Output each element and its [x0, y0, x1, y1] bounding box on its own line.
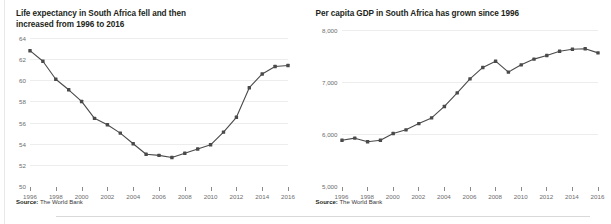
data-point-marker	[353, 136, 356, 139]
x-axis-tick	[521, 187, 522, 191]
data-point-marker	[119, 131, 122, 134]
data-point-marker	[442, 105, 445, 108]
x-axis-tick-label: 2016	[591, 193, 605, 200]
data-point-marker	[519, 63, 522, 66]
data-point-marker	[170, 156, 173, 159]
x-axis-tick	[30, 187, 31, 191]
x-axis-tick	[495, 187, 496, 191]
panel-per-capita-gdp: Per capita GDP in South Africa has grown…	[306, 0, 611, 224]
data-point-marker	[144, 153, 147, 156]
x-axis-tick-label: 2014	[565, 193, 579, 200]
data-point-marker	[417, 122, 420, 125]
source-text: The World Bank	[338, 199, 382, 205]
data-point-marker	[429, 116, 432, 119]
source-label: Source:	[16, 199, 38, 205]
x-axis-tick-label: 2004	[126, 193, 140, 200]
data-point-marker	[132, 142, 135, 145]
data-point-marker	[468, 77, 471, 80]
data-point-marker	[506, 70, 509, 73]
data-point-marker	[596, 51, 599, 54]
data-point-marker	[532, 57, 535, 60]
y-axis-tick-label: 6,000	[298, 131, 338, 138]
data-point-marker	[67, 88, 70, 91]
series-polyline	[342, 49, 598, 142]
y-axis-tick-label: 8,000	[298, 27, 338, 34]
x-axis-tick	[288, 187, 289, 191]
plot-canvas-per-capita-gdp: 5,0006,0007,0008,00019961998200020022004…	[342, 30, 598, 186]
y-axis-tick-label: 60	[0, 77, 26, 84]
y-axis-tick-label: 54	[0, 140, 26, 147]
x-axis-tick	[211, 187, 212, 191]
data-series-line	[30, 38, 288, 186]
x-axis-tick	[185, 187, 186, 191]
x-axis-tick-label: 2006	[463, 193, 477, 200]
y-axis-tick-label: 7,000	[298, 79, 338, 86]
x-axis-tick-label: 2012	[230, 193, 244, 200]
y-axis-tick-label: 50	[0, 183, 26, 190]
x-axis-tick	[82, 187, 83, 191]
y-axis-tick-label: 58	[0, 98, 26, 105]
y-axis-tick-label: 5,000	[298, 183, 338, 190]
y-axis-tick-label: 64	[0, 35, 26, 42]
plot-canvas-life-expectancy: 5052545658606264199619982000200220042006…	[30, 38, 288, 186]
x-axis-tick-label: 2012	[539, 193, 553, 200]
data-point-marker	[570, 48, 573, 51]
data-point-marker	[365, 140, 368, 143]
x-axis-tick-label: 2014	[255, 193, 269, 200]
data-point-marker	[41, 60, 44, 63]
x-axis-tick-label: 2008	[488, 193, 502, 200]
x-axis-tick-label: 2010	[514, 193, 528, 200]
data-point-marker	[106, 123, 109, 126]
x-axis-tick	[236, 187, 237, 191]
data-point-marker	[222, 130, 225, 133]
data-point-marker	[273, 65, 276, 68]
data-point-marker	[157, 154, 160, 157]
chart-title-per-capita-gdp: Per capita GDP in South Africa has grown…	[316, 8, 576, 19]
data-point-marker	[209, 143, 212, 146]
data-point-marker	[261, 72, 264, 75]
y-axis-tick-label: 52	[0, 161, 26, 168]
data-point-marker	[80, 100, 83, 103]
x-axis-tick-label: 2004	[437, 193, 451, 200]
data-point-marker	[378, 139, 381, 142]
x-axis-tick	[133, 187, 134, 191]
x-axis-tick	[444, 187, 445, 191]
data-point-marker	[235, 116, 238, 119]
series-polyline	[30, 51, 288, 158]
x-axis-tick	[393, 187, 394, 191]
data-point-marker	[93, 117, 96, 120]
data-point-marker	[404, 128, 407, 131]
x-axis-tick	[262, 187, 263, 191]
x-axis-tick-label: 2002	[101, 193, 115, 200]
data-point-marker	[545, 54, 548, 57]
data-point-marker	[340, 139, 343, 142]
x-axis-tick	[418, 187, 419, 191]
data-point-marker	[455, 91, 458, 94]
data-point-marker	[54, 78, 57, 81]
x-axis-tick	[546, 187, 547, 191]
data-point-marker	[557, 50, 560, 53]
x-axis-tick	[470, 187, 471, 191]
x-axis-tick-label: 2010	[204, 193, 218, 200]
data-point-marker	[286, 64, 289, 67]
x-axis-tick	[572, 187, 573, 191]
x-axis-tick	[107, 187, 108, 191]
x-axis-tick-label: 2000	[386, 193, 400, 200]
data-point-marker	[183, 152, 186, 155]
panel-life-expectancy: Life expectancy in South Africa fell and…	[0, 0, 306, 224]
data-point-marker	[583, 47, 586, 50]
x-axis-tick-label: 2002	[411, 193, 425, 200]
y-axis-tick-label: 56	[0, 119, 26, 126]
x-axis-tick	[56, 187, 57, 191]
data-series-line	[342, 30, 598, 186]
data-point-marker	[391, 132, 394, 135]
x-axis-tick	[159, 187, 160, 191]
chart-title-life-expectancy: Life expectancy in South Africa fell and…	[16, 8, 231, 30]
x-axis-tick-label: 2006	[152, 193, 166, 200]
data-point-marker	[196, 147, 199, 150]
x-axis-tick-label: 2008	[178, 193, 192, 200]
source-note-life-expectancy: Source: The World Bank	[16, 199, 83, 205]
data-point-marker	[28, 49, 31, 52]
source-note-per-capita-gdp: Source: The World Bank	[316, 199, 383, 205]
y-axis-tick-label: 62	[0, 56, 26, 63]
